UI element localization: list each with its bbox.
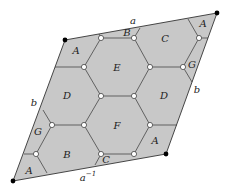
side-label-bottom-exponent: −1 bbox=[86, 170, 96, 178]
region-label: B bbox=[62, 149, 70, 160]
region-label: D bbox=[159, 90, 168, 101]
region-label: A bbox=[24, 165, 32, 176]
vertex bbox=[180, 64, 185, 69]
region-label: D bbox=[62, 90, 71, 101]
vertex bbox=[131, 151, 136, 156]
vertex bbox=[49, 122, 54, 127]
vertex bbox=[81, 64, 86, 69]
region-label: F bbox=[113, 120, 122, 131]
side-label-right: b bbox=[194, 84, 200, 95]
vertex bbox=[98, 93, 103, 98]
corner-vertex bbox=[11, 179, 16, 184]
vertex bbox=[33, 151, 38, 156]
region-label: A bbox=[150, 135, 158, 146]
vertex bbox=[81, 122, 86, 127]
region-label: G bbox=[34, 126, 42, 137]
region-label: B bbox=[122, 27, 130, 38]
vertex bbox=[196, 35, 201, 40]
side-label-top: a bbox=[130, 15, 136, 26]
hexagon-tiling-diagram: A B C A E G D D F G B A C A a b b a−1 bbox=[0, 0, 231, 192]
side-label-bottom: a−1 bbox=[80, 170, 96, 183]
corner-vertex bbox=[164, 152, 169, 157]
region-label: C bbox=[102, 154, 110, 165]
region-label: C bbox=[161, 33, 169, 44]
side-label-left: b bbox=[31, 97, 37, 108]
vertex bbox=[131, 93, 136, 98]
vertex bbox=[147, 122, 152, 127]
corner-vertex bbox=[215, 11, 220, 16]
corner-vertex bbox=[63, 38, 68, 43]
region-label: A bbox=[198, 18, 206, 29]
vertex bbox=[131, 35, 136, 40]
region-label: A bbox=[71, 45, 79, 56]
region-label: E bbox=[112, 62, 121, 73]
vertex bbox=[98, 35, 103, 40]
vertex bbox=[147, 64, 152, 69]
region-label: G bbox=[188, 59, 196, 70]
